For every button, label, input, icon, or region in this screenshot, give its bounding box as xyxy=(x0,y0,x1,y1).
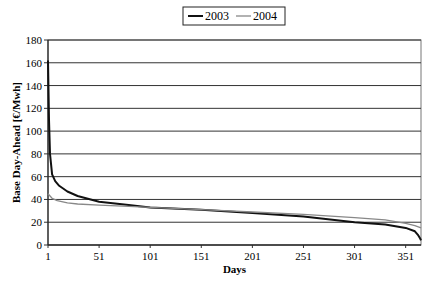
x-tick-label: 251 xyxy=(295,250,312,262)
y-tick-label: 60 xyxy=(31,171,43,183)
x-tick-label: 51 xyxy=(94,250,105,262)
y-tick-label: 100 xyxy=(26,125,43,137)
series-line-2003 xyxy=(48,61,421,241)
y-tick-label: 120 xyxy=(26,102,43,114)
x-axis-label: Days xyxy=(223,263,247,275)
x-tick-label: 151 xyxy=(193,250,210,262)
x-tick-label: 301 xyxy=(346,250,363,262)
legend-label-2004: 2004 xyxy=(253,9,277,23)
y-tick-label: 20 xyxy=(31,216,43,228)
legend-label-2003: 2003 xyxy=(205,9,229,23)
x-tick-label: 1 xyxy=(45,250,51,262)
plot-area xyxy=(48,40,421,245)
chart-container: 0204060801001201401601801511011512012513… xyxy=(0,0,428,282)
y-tick-label: 80 xyxy=(31,148,43,160)
x-tick-label: 201 xyxy=(244,250,261,262)
y-tick-label: 40 xyxy=(31,193,43,205)
y-axis-label: Base Day-Ahead [€/Mwh] xyxy=(10,82,22,203)
y-tick-label: 0 xyxy=(37,239,43,251)
x-tick-label: 101 xyxy=(142,250,159,262)
y-tick-label: 160 xyxy=(26,57,43,69)
y-tick-label: 180 xyxy=(26,34,43,46)
x-tick-label: 351 xyxy=(397,250,414,262)
line-chart: 0204060801001201401601801511011512012513… xyxy=(0,0,428,282)
y-tick-label: 140 xyxy=(26,80,43,92)
